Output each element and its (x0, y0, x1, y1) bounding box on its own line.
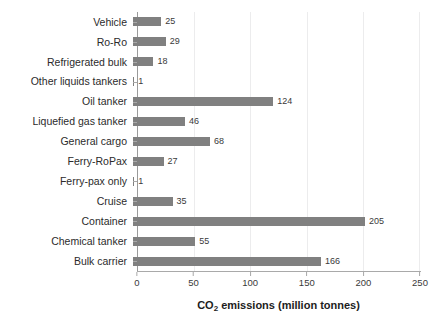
bar-row: Liquefied gas tanker46 (0, 112, 444, 132)
x-tick: 150 (299, 272, 315, 288)
bar (133, 97, 273, 106)
bar (133, 257, 321, 266)
category-label: Liquefied gas tanker (0, 116, 133, 127)
y-tick-mark (133, 42, 137, 43)
x-tick-label: 100 (242, 278, 258, 288)
bar-rows: Vehicle25Ro-Ro29Refrigerated bulk18Other… (0, 12, 444, 271)
y-tick-mark (133, 82, 137, 83)
bar-row: Chemical tanker55 (0, 231, 444, 251)
bar-container: 35 (133, 191, 444, 211)
bar-row: Other liquids tankers1 (0, 72, 444, 92)
bar-value-label: 205 (369, 217, 384, 226)
bar-value-label: 68 (214, 137, 224, 146)
y-tick-mark (133, 181, 137, 182)
bar-container: 29 (133, 32, 444, 52)
x-tick-label: 0 (134, 278, 139, 288)
bar-row: Refrigerated bulk18 (0, 52, 444, 72)
bar-value-label: 124 (277, 97, 292, 106)
x-axis-ticks: 050100150200250 (137, 272, 420, 288)
x-tick-mark (363, 272, 364, 276)
x-tick-mark (193, 272, 194, 276)
bar-value-label: 1 (138, 77, 143, 86)
bar-row: Cruise35 (0, 191, 444, 211)
bar (133, 17, 161, 26)
x-tick: 50 (188, 272, 199, 288)
bar-container: 25 (133, 12, 444, 32)
bar-container: 1 (133, 171, 444, 191)
category-label: Oil tanker (0, 96, 133, 107)
x-tick-label: 200 (355, 278, 371, 288)
category-label: Ferry-RoPax (0, 156, 133, 167)
x-tick: 200 (355, 272, 371, 288)
x-axis-title: CO2 emissions (million tonnes) (137, 300, 420, 311)
bar-value-label: 55 (199, 237, 209, 246)
x-tick-label: 150 (299, 278, 315, 288)
bar-value-label: 29 (170, 37, 180, 46)
bar-row: Ferry-RoPax27 (0, 151, 444, 171)
x-tick-mark (306, 272, 307, 276)
bar (133, 237, 195, 246)
y-tick-mark (133, 22, 137, 23)
y-tick-mark (133, 141, 137, 142)
y-tick-mark (133, 161, 137, 162)
bar-container: 18 (133, 52, 444, 72)
category-label: Bulk carrier (0, 256, 133, 267)
x-tick: 100 (242, 272, 258, 288)
bar-row: Ro-Ro29 (0, 32, 444, 52)
bar-container: 68 (133, 132, 444, 152)
y-tick-mark (133, 241, 137, 242)
category-label: Other liquids tankers (0, 76, 133, 87)
y-tick-mark (133, 261, 137, 262)
bar-container: 124 (133, 92, 444, 112)
bar-chart: Vehicle25Ro-Ro29Refrigerated bulk18Other… (0, 0, 444, 328)
x-tick: 250 (412, 272, 428, 288)
bar-row: Oil tanker124 (0, 92, 444, 112)
bar-row: Container205 (0, 211, 444, 231)
x-axis-title-post: emissions (million tonnes) (218, 299, 360, 311)
bar-value-label: 1 (138, 177, 143, 186)
bar (133, 137, 210, 146)
y-tick-mark (133, 221, 137, 222)
bar-container: 55 (133, 231, 444, 251)
bar (133, 197, 173, 206)
bar-value-label: 18 (157, 57, 167, 66)
bar-container: 46 (133, 112, 444, 132)
bar-value-label: 46 (189, 117, 199, 126)
bar-container: 205 (133, 211, 444, 231)
y-tick-mark (133, 62, 137, 63)
x-axis-title-sub: 2 (214, 304, 218, 313)
category-label: Chemical tanker (0, 236, 133, 247)
bar (133, 37, 166, 46)
x-tick-label: 50 (188, 278, 199, 288)
bar-value-label: 25 (165, 17, 175, 26)
category-label: Cruise (0, 196, 133, 207)
x-axis-title-pre: CO (197, 299, 214, 311)
bar-container: 27 (133, 151, 444, 171)
bar-row: Bulk carrier166 (0, 251, 444, 271)
category-label: Ro-Ro (0, 37, 133, 48)
bar (133, 157, 164, 166)
y-tick-mark (133, 122, 137, 123)
bar-value-label: 166 (325, 257, 340, 266)
bar-container: 166 (133, 251, 444, 271)
y-tick-mark (133, 201, 137, 202)
bar-value-label: 35 (177, 197, 187, 206)
bar (133, 217, 365, 226)
bar-row: Ferry-pax only1 (0, 171, 444, 191)
x-tick-mark (136, 272, 137, 276)
x-tick-mark (419, 272, 420, 276)
category-label: General cargo (0, 136, 133, 147)
bar-row: General cargo68 (0, 132, 444, 152)
x-tick-label: 250 (412, 278, 428, 288)
x-tick: 0 (134, 272, 139, 288)
x-tick-mark (250, 272, 251, 276)
y-tick-mark (133, 102, 137, 103)
bar (133, 117, 185, 126)
bar-container: 1 (133, 72, 444, 92)
category-label: Refrigerated bulk (0, 57, 133, 68)
bar-row: Vehicle25 (0, 12, 444, 32)
bar-value-label: 27 (168, 157, 178, 166)
category-label: Ferry-pax only (0, 176, 133, 187)
category-label: Vehicle (0, 17, 133, 28)
category-label: Container (0, 216, 133, 227)
